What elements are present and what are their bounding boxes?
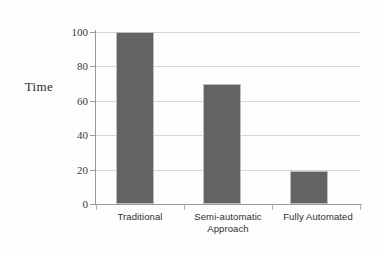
y-tick-mark-100 [90,32,96,33]
y-tick-label-0: 0 [48,198,88,210]
y-tick-mark-40 [90,135,96,136]
x-tick-mark-1 [184,204,185,210]
y-tick-label-20: 20 [48,164,88,176]
y-tick-mark-20 [90,170,96,171]
y-axis-line [95,30,96,205]
plot-area [96,32,360,204]
x-tick-mark-2 [272,204,273,210]
y-tick-mark-60 [90,101,96,102]
y-axis-title: Time [8,79,70,95]
x-axis-label-fully-automated: Fully Automated [272,211,364,223]
x-axis-label-semi-automatic-approach-line2: Approach [184,223,272,235]
x-tick-mark-start [96,204,97,210]
x-axis-label-traditional: Traditional [96,211,184,223]
bar-fully-automated[interactable] [290,171,328,204]
x-axis-label-fully-automated-line1: Fully Automated [272,211,364,223]
x-axis-label-semi-automatic-approach: Semi-automatic Approach [184,211,272,235]
x-tick-mark-end [360,204,361,210]
y-tick-mark-80 [90,66,96,67]
x-axis-line [90,204,362,205]
y-tick-label-80: 80 [48,60,88,72]
bar-chart: Time 100 80 60 40 20 0 Traditional Semi-… [0,0,378,255]
y-tick-label-100: 100 [48,26,88,38]
bar-traditional[interactable] [116,32,154,204]
y-tick-label-60: 60 [48,95,88,107]
bar-semi-automatic-approach[interactable] [203,84,241,204]
y-tick-label-40: 40 [48,129,88,141]
x-axis-label-traditional-line1: Traditional [96,211,184,223]
x-axis-label-semi-automatic-approach-line1: Semi-automatic [184,211,272,223]
